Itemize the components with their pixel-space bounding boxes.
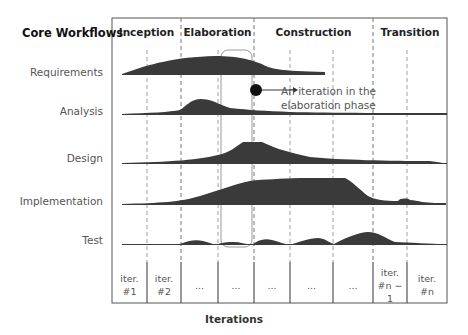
phase-dividers [181,18,373,262]
iteration-marker-dot [250,84,262,96]
iteration-cell-line2: #n − 1 [373,279,407,305]
workflow-label-implementation: Implementation [20,195,103,207]
phase-inception: Inception [112,26,181,38]
annotation-line-2: elaboration phase [281,98,376,112]
phase-transition: Transition [373,26,447,38]
iteration-cell-line1: ... [307,279,316,292]
iteration-cell: iter. #n [407,267,447,303]
iteration-cell: ... [254,267,290,303]
iteration-cell: iter. #1 [112,267,147,303]
iteration-cell: ... [218,267,254,303]
row-header: Core Workflows [22,26,123,40]
iteration-cell-line1: ... [195,279,204,292]
workflow-label-analysis: Analysis [60,105,103,117]
iteration-cell-line2: #n [420,285,434,298]
requirements-curve [122,56,325,74]
workflow-label-requirements: Requirements [30,66,103,78]
iteration-cell-line1: iter. [381,266,399,279]
iteration-cell-line1: ... [348,279,357,292]
annotation-line-1: An iteration in the [281,84,376,98]
annotation-text: An iteration in the elaboration phase [281,84,376,112]
workflow-label-design: Design [67,152,103,164]
iteration-cell: ... [181,267,218,303]
iteration-cell-line1: ... [267,279,276,292]
iteration-cell: iter. #2 [147,267,181,303]
iteration-cell-line1: iter. [120,272,138,285]
x-axis-label: Iterations [0,313,468,325]
iteration-cell: iter. #n − 1 [373,267,407,303]
iteration-cell: ... [333,267,373,303]
phase-elaboration: Elaboration [181,26,254,38]
iteration-cell-line1: iter. [418,272,436,285]
design-curve [122,142,447,164]
workflow-label-test: Test [82,234,103,246]
test-curve [122,232,447,245]
iteration-cell-line1: ... [231,279,240,292]
phase-construction: Construction [254,26,373,38]
iteration-cell-line2: #2 [157,285,171,298]
implementation-curve [122,178,446,205]
iteration-cell-line2: #1 [122,285,136,298]
iteration-cell-line1: iter. [155,272,173,285]
iteration-cell: ... [290,267,333,303]
